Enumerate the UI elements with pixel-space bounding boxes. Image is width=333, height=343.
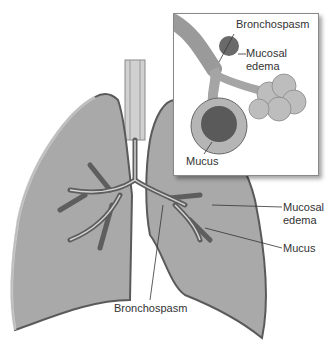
label-mucosal: Mucosal	[283, 201, 324, 213]
inset-label-edema: edema	[246, 60, 280, 72]
left-lung	[12, 94, 132, 330]
inset-label-mucus: Mucus	[186, 155, 218, 167]
label-mucus: Mucus	[283, 242, 315, 254]
label-bronchospasm: Bronchospasm	[114, 302, 187, 314]
lung-diagram: Bronchospasm Mucosal edema Mucus Mucosal…	[0, 0, 333, 343]
magnified-airway-inset	[173, 13, 319, 176]
inset-label-bronchospasm: Bronchospasm	[236, 18, 309, 30]
trachea	[125, 60, 145, 140]
label-edema: edema	[283, 214, 317, 226]
airway-closeup	[174, 14, 318, 175]
inset-label-mucosal: Mucosal	[246, 47, 287, 59]
